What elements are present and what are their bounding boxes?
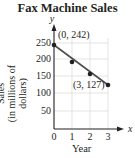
annotation-start: (0, 242): [58, 29, 90, 41]
data-point: [88, 72, 93, 77]
x-axis-arrow-icon: [117, 127, 124, 132]
svg-text:150: 150: [36, 70, 51, 81]
svg-text:200: 200: [36, 53, 51, 64]
data-point: [52, 43, 57, 48]
svg-text:50: 50: [41, 105, 51, 116]
plot-area: y x 50 100 150 200 250 0 1 2 3 (0, 242) …: [0, 0, 135, 158]
x-axis-label: Year: [72, 143, 91, 154]
data-point: [70, 60, 75, 65]
svg-text:3: 3: [106, 131, 111, 142]
x-axis-name: x: [127, 123, 133, 134]
annotation-end: (3, 127): [73, 79, 105, 91]
y-axis-name: y: [49, 13, 55, 24]
svg-text:100: 100: [36, 87, 51, 98]
svg-text:1: 1: [70, 131, 75, 142]
data-point: [106, 83, 111, 88]
y-ticks: 50 100 150 200 250: [36, 37, 51, 116]
y-axis-arrow-icon: [52, 24, 57, 31]
x-ticks: 0 1 2 3: [52, 131, 111, 142]
svg-text:2: 2: [88, 131, 93, 142]
svg-text:0: 0: [52, 131, 57, 142]
svg-text:250: 250: [36, 37, 51, 48]
